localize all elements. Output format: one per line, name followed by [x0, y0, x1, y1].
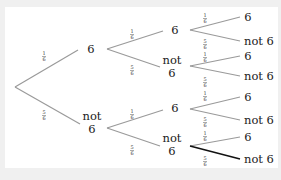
outcome-label: 6 — [244, 10, 251, 24]
probability-denominator: 6 — [203, 82, 206, 88]
outcome-label: 6 — [88, 122, 95, 136]
probability-denominator: 6 — [130, 150, 133, 156]
probability-denominator: 6 — [130, 34, 133, 40]
outcome-label: not 6 — [244, 152, 274, 166]
tree-branch — [190, 146, 240, 159]
tree-branch — [190, 30, 240, 41]
probability-denominator: 6 — [203, 96, 206, 102]
probability-denominator: 6 — [203, 57, 206, 63]
outcome-label: 6 — [171, 23, 178, 37]
outcome-label: not — [163, 131, 182, 145]
probability-denominator: 6 — [130, 114, 133, 120]
probability-denominator: 6 — [203, 161, 206, 167]
tree-branch — [190, 137, 240, 146]
tree-branch — [190, 109, 240, 120]
outcome-label: 6 — [168, 144, 175, 158]
outcome-label: 6 — [168, 66, 175, 80]
outcome-label: 6 — [244, 130, 251, 144]
outcome-label: not 6 — [244, 69, 274, 83]
tree-branch — [107, 110, 163, 128]
outcome-label: not 6 — [244, 34, 274, 48]
tree-branch — [107, 31, 163, 49]
probability-denominator: 6 — [130, 70, 133, 76]
probability-tree: 16656not616656not616656not616656not 6166… — [0, 0, 281, 180]
tree-branch — [190, 66, 240, 76]
outcome-label: 6 — [87, 42, 94, 56]
tree-branch — [15, 50, 78, 87]
tree-branch — [15, 87, 80, 124]
probability-denominator: 6 — [203, 122, 206, 128]
outcome-label: not 6 — [244, 113, 274, 127]
outcome-label: not — [163, 53, 182, 67]
probability-denominator: 6 — [42, 115, 45, 121]
probability-denominator: 6 — [42, 56, 45, 62]
probability-denominator: 6 — [203, 18, 206, 24]
outcome-label: 6 — [244, 49, 251, 63]
tree-branch — [190, 97, 240, 109]
probability-denominator: 6 — [203, 44, 206, 50]
tree-branch — [190, 56, 240, 66]
outcome-label: not — [83, 109, 102, 123]
outcome-label: 6 — [171, 101, 178, 115]
outcome-label: 6 — [244, 90, 251, 104]
tree-branch — [190, 17, 240, 30]
probability-denominator: 6 — [203, 136, 206, 142]
